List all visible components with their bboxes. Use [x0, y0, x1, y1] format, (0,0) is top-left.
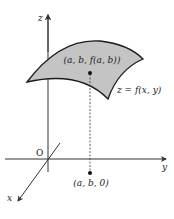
surface-point-label: (a, b, f(a, b))	[64, 55, 121, 65]
surface-equation-label: z = f(x, y)	[116, 85, 162, 95]
plane-point	[88, 171, 92, 175]
surface-point	[88, 71, 92, 75]
z-axis-label: z	[37, 13, 43, 23]
surface-diagram: z y x O (a, b, f(a, b)) z = f(x, y) (a, …	[0, 0, 174, 219]
plane-point-label: (a, b, 0)	[73, 178, 109, 188]
x-axis-label: x	[7, 193, 12, 203]
y-axis-label: y	[161, 162, 168, 172]
origin-label: O	[36, 148, 43, 158]
